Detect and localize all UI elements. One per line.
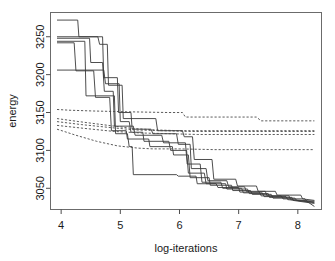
energy-vs-log-iterations-chart: 45678 30503100315032003250 log-iteration… <box>0 0 335 261</box>
y-axis-ticks: 30503100315032003250 <box>34 25 50 201</box>
y-tick-label: 3150 <box>34 100 46 124</box>
series-run-6-solid <box>57 41 314 206</box>
y-tick-label: 3200 <box>34 62 46 86</box>
series-run-3-solid <box>57 38 314 202</box>
series-run-4-solid <box>57 43 314 203</box>
y-tick-label: 3250 <box>34 25 46 49</box>
x-tick-label: 6 <box>176 219 182 231</box>
x-tick-label: 5 <box>117 219 123 231</box>
y-tick-label: 3100 <box>34 138 46 162</box>
series-bound-1-dashed <box>57 109 314 120</box>
x-tick-label: 4 <box>58 219 64 231</box>
x-axis-label: log-iterations <box>155 242 218 254</box>
x-tick-label: 7 <box>236 219 242 231</box>
y-tick-label: 3050 <box>34 176 46 200</box>
series-bound-3-dashed <box>57 122 314 132</box>
series-bound-2-dashed <box>57 119 314 131</box>
chart-figure: 45678 30503100315032003250 log-iteration… <box>0 0 335 261</box>
x-tick-label: 8 <box>295 219 301 231</box>
y-axis-label: energy <box>6 94 18 128</box>
series-run-1-solid <box>57 20 314 201</box>
series-layer <box>57 20 314 206</box>
series-bound-4-dashed <box>57 125 314 134</box>
x-axis-ticks: 45678 <box>58 210 301 231</box>
